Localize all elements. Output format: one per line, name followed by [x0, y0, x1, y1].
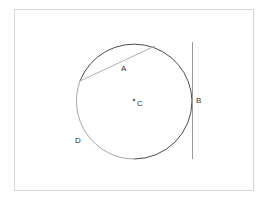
label-d: D [75, 136, 81, 145]
label-a: A [121, 64, 127, 73]
label-b: B [196, 96, 201, 105]
circle-outline [80, 44, 192, 159]
circle-diagram: A B C D [0, 0, 261, 197]
label-c: C [137, 99, 143, 108]
arc-d [76, 81, 134, 159]
center-point-icon [133, 99, 135, 101]
